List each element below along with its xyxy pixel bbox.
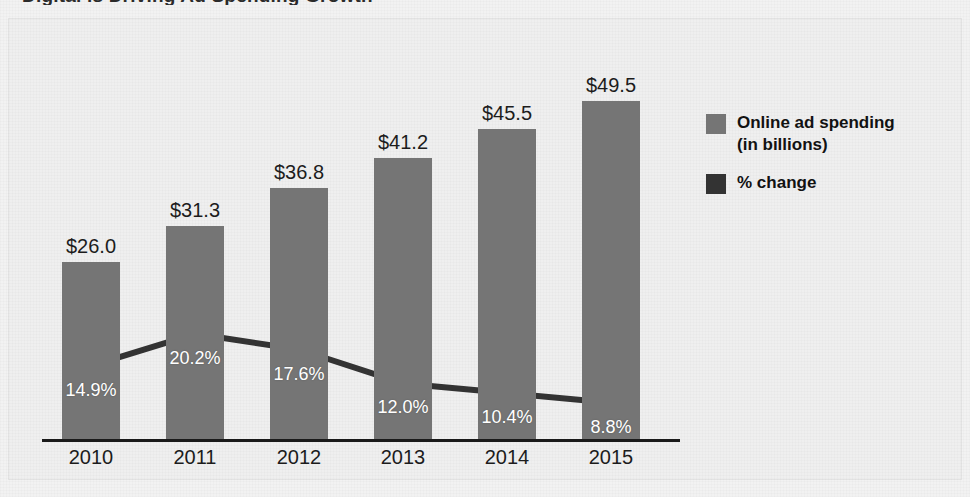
bar-value-label-2010: $26.0 xyxy=(41,235,141,258)
x-axis-label-2011: 2011 xyxy=(145,446,245,469)
bar-2012 xyxy=(270,188,328,439)
bar-value-label-2014: $45.5 xyxy=(457,102,557,125)
bar-value-label-2015: $49.5 xyxy=(561,74,661,97)
legend-item-online-ad-spending-label: Online ad spending (in billions) xyxy=(737,112,895,156)
chart-plot-area: $26.0$31.3$36.8$41.2$45.5$49.514.9%20.2%… xyxy=(0,0,970,497)
x-axis-label-2015: 2015 xyxy=(561,446,661,469)
percent-change-label-2011: 20.2% xyxy=(145,348,245,369)
percent-change-label-2010: 14.9% xyxy=(41,380,141,401)
x-axis-label-2010: 2010 xyxy=(41,446,141,469)
line-swatch-icon xyxy=(706,174,726,194)
x-axis-label-2012: 2012 xyxy=(249,446,349,469)
bar-2010 xyxy=(62,262,120,439)
figure-root: Digital is Driving Ad Spending Growth $2… xyxy=(0,0,970,497)
percent-change-label-2013: 12.0% xyxy=(353,397,453,418)
bar-value-label-2012: $36.8 xyxy=(249,161,349,184)
bar-value-label-2013: $41.2 xyxy=(353,131,453,154)
bar-2011 xyxy=(166,226,224,439)
percent-change-label-2015: 8.8% xyxy=(561,417,661,438)
x-axis-label-2013: 2013 xyxy=(353,446,453,469)
x-axis-line xyxy=(42,439,680,442)
percent-change-label-2014: 10.4% xyxy=(457,407,557,428)
legend-label-line-2: (in billions) xyxy=(737,135,828,154)
legend-item-online-ad-spending: Online ad spending (in billions) xyxy=(706,112,946,156)
legend-label-line-1: Online ad spending xyxy=(737,113,895,132)
bar-value-label-2011: $31.3 xyxy=(145,199,245,222)
bars-swatch-icon xyxy=(706,114,726,134)
bar-2015 xyxy=(582,101,640,439)
legend-item-percent-change-label: % change xyxy=(737,172,816,194)
x-axis-label-2014: 2014 xyxy=(457,446,557,469)
bar-2014 xyxy=(478,129,536,439)
chart-legend: Online ad spending (in billions) % chang… xyxy=(706,112,946,210)
legend-item-percent-change: % change xyxy=(706,172,946,194)
percent-change-label-2012: 17.6% xyxy=(249,364,349,385)
